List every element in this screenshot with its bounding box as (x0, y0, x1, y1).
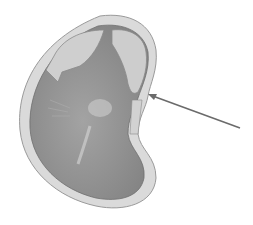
seed-illustration (0, 0, 253, 225)
highlight-center (88, 99, 112, 117)
diagram-canvas (0, 0, 253, 225)
pointer-arrow (148, 94, 240, 128)
radicle (130, 100, 142, 134)
